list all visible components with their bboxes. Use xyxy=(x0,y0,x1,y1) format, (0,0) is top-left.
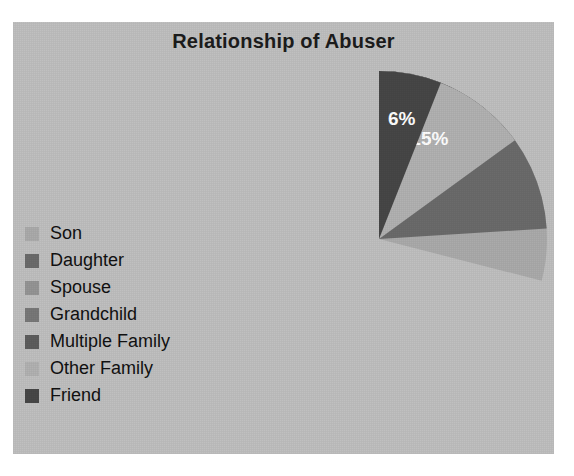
legend-swatch-icon xyxy=(25,308,39,322)
legend-item[interactable]: Spouse xyxy=(25,274,215,301)
legend-item-label: Multiple Family xyxy=(50,331,170,352)
legend-swatch-icon xyxy=(25,389,39,403)
legend-item-label: Grandchild xyxy=(50,304,137,325)
legend-item-label: Daughter xyxy=(50,250,124,271)
legend-item[interactable]: Multiple Family xyxy=(25,328,215,355)
legend-swatch-icon xyxy=(25,281,39,295)
legend-swatch-icon xyxy=(25,335,39,349)
legend-swatch-icon xyxy=(25,362,39,376)
legend-item-label: Friend xyxy=(50,385,101,406)
legend-item-label: Spouse xyxy=(50,277,111,298)
chart-screenshot: Relationship of Abuser SonDaughterSpouse… xyxy=(0,0,574,476)
legend-swatch-icon xyxy=(25,254,39,268)
legend-item[interactable]: Daughter xyxy=(25,247,215,274)
pie-chart-svg: 29%24%8%7%11%15%6% xyxy=(211,43,551,433)
legend-item[interactable]: Grandchild xyxy=(25,301,215,328)
pie-slice-label: 6% xyxy=(388,108,416,129)
chart-legend: SonDaughterSpouseGrandchildMultiple Fami… xyxy=(25,220,215,409)
legend-item-label: Son xyxy=(50,223,82,244)
chart-panel: Relationship of Abuser SonDaughterSpouse… xyxy=(13,22,554,454)
pie-chart: 29%24%8%7%11%15%6% xyxy=(211,43,551,433)
legend-item[interactable]: Friend xyxy=(25,382,215,409)
legend-swatch-icon xyxy=(25,227,39,241)
legend-item[interactable]: Son xyxy=(25,220,215,247)
legend-item[interactable]: Other Family xyxy=(25,355,215,382)
legend-item-label: Other Family xyxy=(50,358,153,379)
